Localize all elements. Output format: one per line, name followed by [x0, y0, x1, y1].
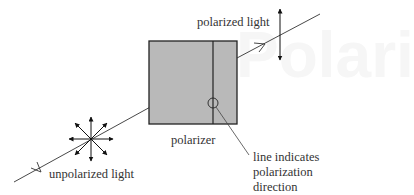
annotation-line-3: direction [253, 180, 297, 194]
annotation-line-2: polarization [253, 165, 313, 179]
unpolarized-light-label: unpolarized light [49, 167, 134, 181]
unpolarized-arrows-icon [69, 117, 113, 161]
polarizer [149, 41, 237, 124]
annotation-line-1: line indicates [253, 150, 319, 164]
polarizer-label: polarizer [171, 133, 215, 147]
polarized-light-label: polarized light [197, 15, 270, 29]
ray-direction-chevron-icon [31, 162, 41, 172]
